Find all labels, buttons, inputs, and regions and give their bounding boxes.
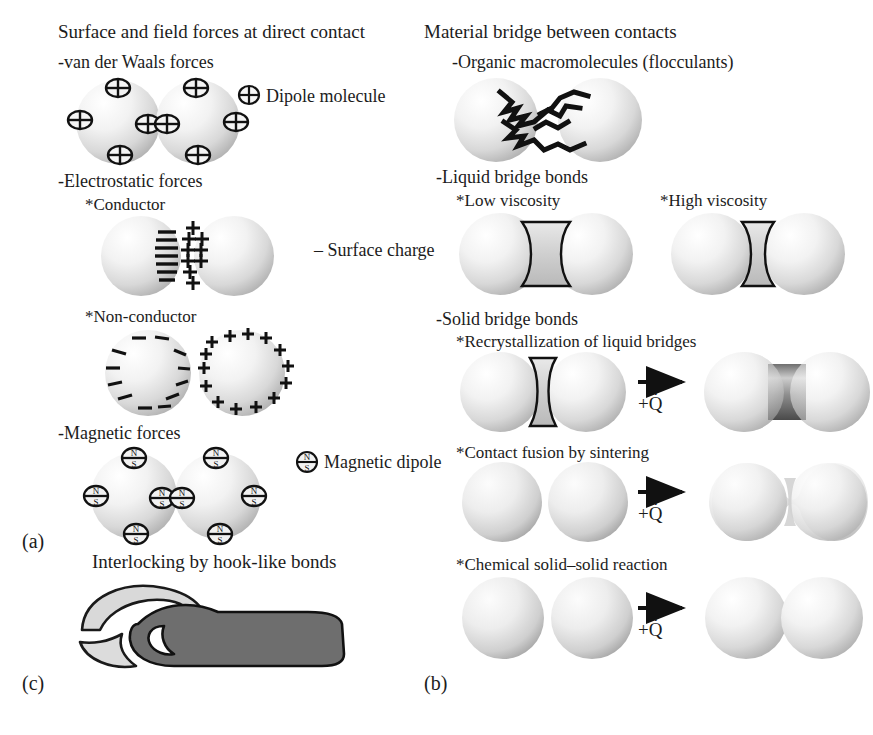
heading-interlocking: Interlocking by hook-like bonds: [92, 552, 336, 571]
arrow-label-recrystallization: +Q̇: [638, 394, 662, 413]
section-heading-solid-bridge: -Solid bridge bonds: [436, 310, 578, 328]
illustration-chemical-before: [460, 576, 635, 660]
subheading-recrystallization: *Recrystallization of liquid bridges: [456, 333, 696, 350]
svg-text:N: N: [304, 452, 311, 462]
svg-text:S: S: [159, 499, 164, 509]
illustration-sintering-after: [700, 462, 870, 542]
svg-text:N: N: [179, 488, 186, 498]
arrow-sintering: [636, 484, 694, 500]
illustration-vdw-spheres: [70, 78, 250, 168]
section-heading-flocculants: -Organic macromolecules (flocculants): [452, 53, 734, 71]
illustration-conductor-spheres: [96, 216, 286, 296]
right-column-header: Material bridge between contacts: [424, 22, 677, 41]
svg-text:N: N: [131, 448, 138, 458]
section-heading-liquid-bridge: -Liquid bridge bonds: [436, 168, 588, 186]
svg-text:S: S: [213, 459, 218, 469]
illustration-low-viscosity-bridge: [456, 212, 636, 296]
svg-text:N: N: [251, 486, 258, 496]
svg-text:N: N: [93, 486, 100, 496]
illustration-recrystallization-before: [458, 352, 628, 432]
dipole-molecule-legend-label: Dipole molecule: [266, 86, 385, 107]
svg-text:N: N: [159, 488, 166, 498]
dipole-molecule-icon: [236, 84, 262, 106]
illustration-interlocking-hooks: [78, 578, 378, 683]
illustration-sintering-before: [460, 462, 630, 542]
arrow-recrystallization: [636, 374, 694, 390]
illustration-magnetic-spheres: NS NS NS NS NS NS NS NS: [82, 448, 272, 544]
panel-label-a: (a): [22, 530, 44, 553]
section-heading-vdw: -van der Waals forces: [58, 53, 214, 71]
magnetic-dipole-legend-label: Magnetic dipole: [324, 452, 441, 473]
magnetic-dipole-icon: NS: [294, 450, 320, 474]
subheading-sintering: *Contact fusion by sintering: [456, 444, 649, 461]
arrow-chemical: [636, 600, 694, 616]
svg-text:S: S: [217, 535, 222, 545]
subheading-conductor: *Conductor: [85, 196, 165, 213]
subheading-nonconductor: *Non-conductor: [85, 308, 196, 325]
illustration-nonconductor-spheres: [100, 328, 300, 418]
svg-text:S: S: [179, 499, 184, 509]
subheading-chemical-reaction: *Chemical solid–solid reaction: [456, 556, 668, 573]
illustration-recrystallization-after: [702, 352, 872, 432]
illustration-chemical-after: [700, 576, 873, 660]
svg-text:N: N: [217, 524, 224, 534]
surface-charge-legend-label: – Surface charge: [314, 240, 435, 261]
panel-label-c: (c): [22, 672, 44, 695]
illustration-flocculant-bridge: [448, 78, 648, 162]
subheading-low-viscosity: *Low viscosity: [456, 192, 560, 209]
arrow-label-chemical: +Q̇: [638, 620, 662, 639]
svg-text:N: N: [213, 448, 220, 458]
svg-text:S: S: [251, 497, 256, 507]
illustration-high-viscosity-bridge: [668, 212, 848, 296]
svg-text:S: S: [304, 463, 309, 473]
subheading-high-viscosity: *High viscosity: [660, 192, 767, 209]
svg-text:N: N: [133, 524, 140, 534]
arrow-label-sintering: +Q̇: [638, 504, 662, 523]
section-heading-magnetic: -Magnetic forces: [58, 424, 180, 442]
left-column-header: Surface and field forces at direct conta…: [58, 22, 365, 41]
panel-label-b: (b): [424, 672, 447, 695]
svg-text:S: S: [131, 459, 136, 469]
svg-text:S: S: [93, 497, 98, 507]
svg-text:S: S: [133, 535, 138, 545]
section-heading-electrostatic: -Electrostatic forces: [58, 172, 202, 190]
